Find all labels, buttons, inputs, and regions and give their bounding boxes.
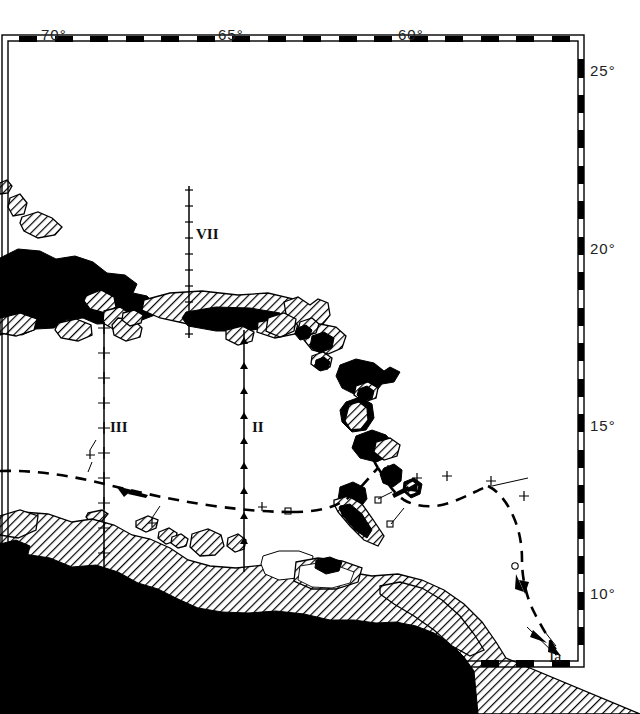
frame-right-segments xyxy=(578,59,584,645)
longitude-label-70: 70° xyxy=(41,26,67,43)
island-bahamas-group xyxy=(0,180,62,238)
map-canvas xyxy=(0,0,640,714)
profile-label-iii: III xyxy=(110,419,128,436)
longitude-label-65: 65° xyxy=(218,26,244,43)
longitude-label-60: 60° xyxy=(398,26,424,43)
profile-label-vii: VII xyxy=(196,226,219,243)
map-figure: 70° 65° 60° 25° 20° 15° 10° VII III II I… xyxy=(0,0,640,714)
profile-label-ii: II xyxy=(252,419,264,436)
latitude-label-15: 15° xyxy=(590,417,616,434)
island-arc-central xyxy=(336,359,400,402)
landmasses xyxy=(0,180,640,714)
island-hispaniola xyxy=(0,249,157,341)
continent-south-america xyxy=(0,510,640,714)
latitude-label-10: 10° xyxy=(590,585,616,602)
latitude-label-20: 20° xyxy=(590,240,616,257)
track-label-ia: Ia xyxy=(549,648,561,666)
latitude-label-25: 25° xyxy=(590,62,616,79)
island-arc-windward xyxy=(340,397,374,432)
